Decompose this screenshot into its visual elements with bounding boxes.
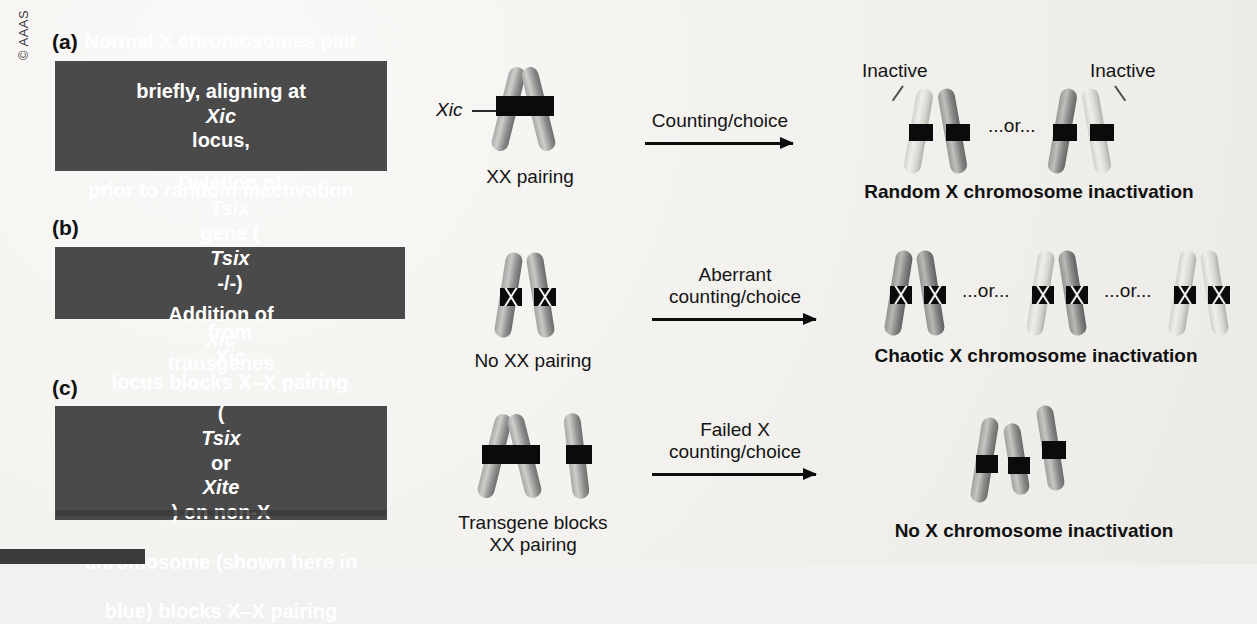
- deletion-x-mark: [1208, 286, 1230, 304]
- panel-b-unpaired-xx: [498, 252, 570, 344]
- panel-a-textbox: Normal X chromosomes pair briefly, align…: [56, 62, 386, 170]
- panel-c-xx-pair: [478, 409, 552, 505]
- deletion-x-mark: [500, 288, 522, 306]
- panel-c-label: (c): [52, 376, 78, 400]
- panel-c-middle-caption-line1: Transgene blocks: [438, 512, 628, 534]
- panel-a-text-line2b: locus,: [85, 128, 357, 153]
- panel-c-text-line2b: or: [85, 451, 357, 476]
- xic-locus-band: [976, 455, 998, 473]
- xic-locus-band: [1053, 124, 1077, 141]
- panel-a: (a) Normal X chromosomes pair briefly, a…: [0, 0, 1257, 200]
- transgene-band: [566, 445, 592, 464]
- panel-b-middle-caption: No XX pairing: [458, 350, 608, 372]
- panel-a-middle-caption: XX pairing: [470, 166, 590, 188]
- xic-locus-label: Xic: [436, 99, 462, 121]
- xic-locus-band-deleted: [1208, 286, 1230, 304]
- panel-a-arrow-label: Counting/choice: [625, 110, 815, 132]
- bottom-edge-bar-left: [0, 549, 145, 564]
- xic-locus-band: [1090, 124, 1114, 141]
- panel-c-arrow: [652, 473, 816, 476]
- panel-b-outcome-pair-3: [1172, 250, 1244, 342]
- panel-b-or-text-1: ...or...: [962, 280, 1010, 302]
- panel-b-outcome-label: Chaotic X chromosome inactivation: [866, 345, 1206, 367]
- xic-locus-band-deleted: [534, 288, 556, 306]
- panel-c-outcome-group: [972, 405, 1092, 505]
- xic-leader-line: [472, 110, 498, 112]
- xic-locus-band: [1008, 457, 1030, 474]
- panel-c-textbox: Addition of Xic transgenes (Tsix or Xite…: [56, 407, 386, 519]
- xic-locus-band-deleted: [1066, 286, 1088, 304]
- panel-a-outcome-pair-1: [908, 88, 982, 180]
- panel-b-outcome-pair-1: [888, 250, 960, 342]
- deletion-x-mark: [534, 288, 556, 306]
- xic-locus-band: [482, 445, 540, 464]
- panel-c-arrow-label-line1: Failed X: [650, 419, 820, 441]
- transgene-band: [1042, 441, 1066, 459]
- deletion-x-mark: [890, 286, 912, 304]
- xic-locus-band-deleted: [1174, 286, 1196, 304]
- panel-c-arrow-label-line2: counting/choice: [650, 441, 820, 463]
- panel-a-text-line1: Normal X chromosomes pair: [85, 29, 357, 54]
- panel-a-arrow: [645, 142, 793, 145]
- panel-c-text-line1a: Addition of: [85, 302, 357, 327]
- panel-c-text-xite: Xite: [203, 476, 240, 498]
- xic-locus-band: [909, 124, 933, 141]
- panel-b-arrow: [652, 318, 816, 321]
- panel-c-text-xic: Xic: [206, 328, 236, 350]
- panel-b-outcome-pair-2: [1030, 250, 1102, 342]
- deletion-x-mark: [924, 286, 946, 304]
- panel-c-text-line4: blue) blocks X–X pairing: [85, 599, 357, 624]
- panel-b-text-tsix-1: Tsix: [210, 197, 249, 219]
- panel-a-label: (a): [52, 30, 78, 54]
- panel-c-transgene-chromosome: [562, 409, 596, 505]
- deletion-x-mark: [1066, 286, 1088, 304]
- bottom-edge-bar-top: [56, 510, 386, 516]
- panel-c-outcome-label: No X chromosome inactivation: [884, 520, 1184, 542]
- panel-a-xx-pair: [492, 62, 566, 158]
- panel-b-text-line1c: -/-): [112, 271, 349, 296]
- panel-a-inactive-label-left: Inactive: [862, 60, 927, 82]
- panel-b-or-text-2: ...or...: [1104, 280, 1152, 302]
- xic-locus-band: [496, 96, 554, 116]
- panel-b-arrow-label-line2: counting/choice: [650, 286, 820, 308]
- panel-b-text-line1a: Deletion of: [112, 171, 349, 196]
- xic-locus-band-deleted: [924, 286, 946, 304]
- panel-b-arrow-label-line1: Aberrant: [650, 264, 820, 286]
- panel-a-outcome-pair-2: [1052, 88, 1126, 180]
- panel-a-or-text: ...or...: [988, 115, 1036, 137]
- xic-locus-band-deleted: [1032, 286, 1054, 304]
- panel-c-middle-caption-line2: XX pairing: [438, 534, 628, 556]
- panel-a-inactive-label-right: Inactive: [1090, 60, 1155, 82]
- panel-c: (c) Addition of Xic transgenes (Tsix or …: [0, 375, 1257, 564]
- xic-locus-band: [946, 124, 970, 141]
- deletion-x-mark: [1174, 286, 1196, 304]
- xic-locus-band-deleted: [890, 286, 912, 304]
- panel-b-text-tsix-2: Tsix: [210, 247, 249, 269]
- xic-locus-band-deleted: [500, 288, 522, 306]
- panel-a-text-line2a: briefly, aligning at: [85, 79, 357, 104]
- panel-a-text-xic: Xic: [206, 105, 236, 127]
- panel-a-inactive-leader-left: [892, 85, 904, 101]
- deletion-x-mark: [1032, 286, 1054, 304]
- panel-c-text-line2a: (: [85, 401, 357, 426]
- panel-c-text-tsix: Tsix: [201, 427, 240, 449]
- panel-b-label: (b): [52, 216, 79, 240]
- panel-b-text-line1b: gene (: [112, 221, 349, 246]
- panel-c-text-line1b: transgenes: [85, 351, 357, 376]
